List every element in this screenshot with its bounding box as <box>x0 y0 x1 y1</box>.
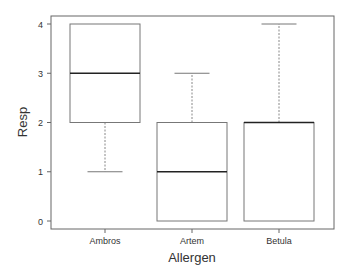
y-axis: 01234 <box>38 20 51 227</box>
y-tick-label: 2 <box>38 118 43 128</box>
y-axis-label: Resp <box>15 107 30 137</box>
iqr-box <box>244 123 314 222</box>
x-axis: AmbrosArtemBetula <box>89 229 291 246</box>
box-artem <box>157 73 227 221</box>
x-axis-label: Allergen <box>168 250 216 265</box>
y-tick-label: 1 <box>38 167 43 177</box>
box-betula <box>244 24 314 221</box>
boxes <box>70 24 314 221</box>
box-ambros <box>70 24 140 172</box>
x-tick-label: Artem <box>180 236 204 246</box>
y-tick-label: 4 <box>38 20 43 30</box>
y-tick-label: 3 <box>38 69 43 79</box>
box-plot-chart: 01234 AmbrosArtemBetula Allergen Resp <box>0 0 350 280</box>
y-tick-label: 0 <box>38 217 43 227</box>
x-tick-label: Betula <box>266 236 292 246</box>
x-tick-label: Ambros <box>89 236 121 246</box>
